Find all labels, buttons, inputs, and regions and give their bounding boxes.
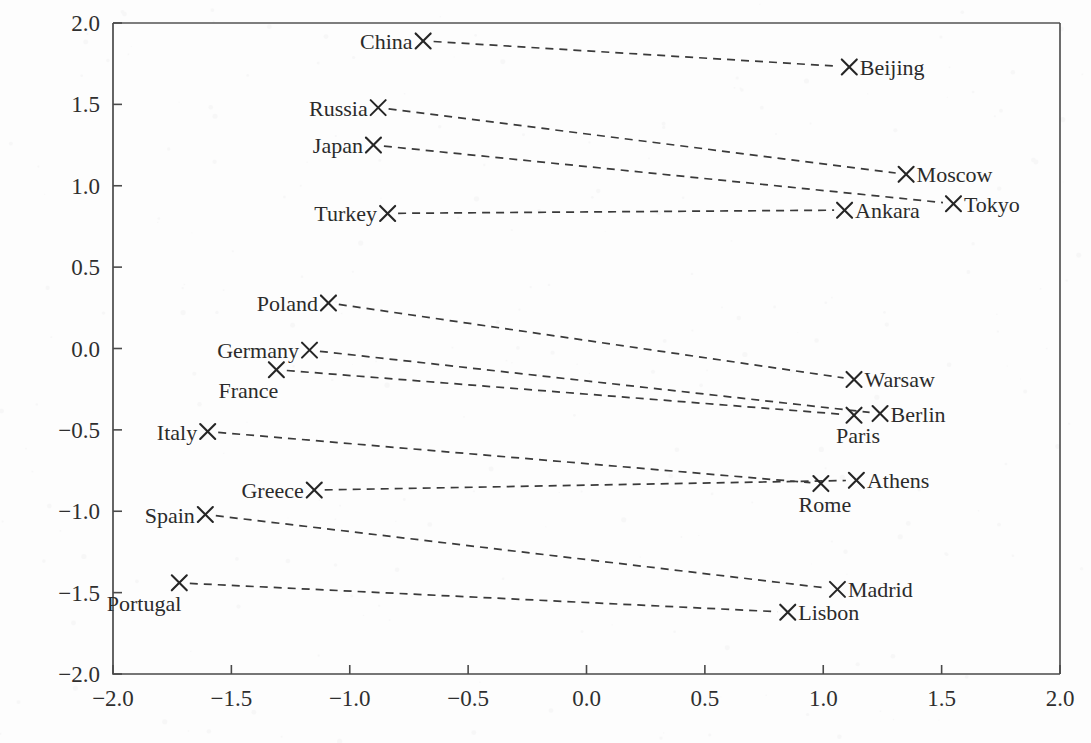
y-tick-label: 0.0 (71, 337, 100, 362)
label-poland: Poland (257, 291, 318, 316)
label-berlin: Berlin (891, 402, 946, 427)
label-turkey: Turkey (314, 201, 377, 226)
y-tick-label: 0.5 (71, 255, 100, 280)
label-spain: Spain (145, 503, 195, 528)
label-beijing: Beijing (860, 55, 925, 80)
label-portugal: Portugal (107, 591, 182, 616)
y-tick-label: 1.5 (71, 92, 100, 117)
label-germany: Germany (217, 338, 299, 363)
y-tick-label: 2.0 (71, 11, 100, 36)
label-athens: Athens (867, 468, 929, 493)
x-tick-label: −1.5 (211, 686, 253, 711)
label-france: France (218, 378, 278, 403)
label-moscow: Moscow (917, 162, 993, 187)
x-tick-label: −0.5 (447, 686, 489, 711)
y-tick-label: 1.0 (71, 174, 100, 199)
x-tick-label: 0.0 (572, 686, 601, 711)
x-tick-label: 1.5 (927, 686, 956, 711)
label-ankara: Ankara (855, 198, 920, 223)
y-tick-label: −1.0 (58, 499, 100, 524)
y-tick-label: −1.5 (58, 581, 100, 606)
label-greece: Greece (241, 478, 303, 503)
label-tokyo: Tokyo (964, 192, 1020, 217)
y-tick-label: −2.0 (58, 662, 100, 687)
label-paris: Paris (836, 423, 880, 448)
label-madrid: Madrid (848, 577, 913, 602)
y-tick-label: −0.5 (58, 418, 100, 443)
x-tick-label: −2.0 (92, 686, 134, 711)
label-china: China (360, 29, 413, 54)
label-rome: Rome (799, 492, 852, 517)
scatter-plot-figure: −2.0−1.5−1.0−0.50.00.51.01.52.0−2.0−1.5−… (0, 0, 1091, 743)
label-lisbon: Lisbon (798, 600, 859, 625)
x-tick-label: −1.0 (329, 686, 371, 711)
x-tick-label: 1.0 (809, 686, 838, 711)
label-japan: Japan (313, 133, 363, 158)
x-tick-label: 2.0 (1046, 686, 1075, 711)
x-tick-label: 0.5 (691, 686, 720, 711)
label-warsaw: Warsaw (865, 367, 935, 392)
label-italy: Italy (157, 420, 197, 445)
label-russia: Russia (309, 96, 368, 121)
